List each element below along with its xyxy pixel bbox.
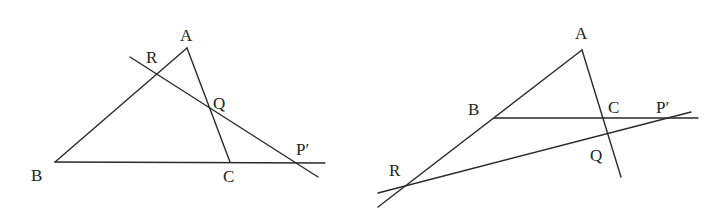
figure-right: A B C P′ Q R [378,24,698,207]
label-B: B [468,100,479,119]
label-Q: Q [213,94,225,113]
transversal [130,57,318,177]
menelaus-diagram: A R Q B C P′ A B C P′ Q R [0,0,726,222]
label-A: A [575,24,588,43]
transversal [378,112,691,193]
figure-left: A R Q B C P′ [31,26,325,186]
label-C: C [223,167,234,186]
label-B: B [31,166,42,185]
side-AB [55,48,187,162]
label-R: R [389,161,401,180]
label-A: A [180,26,193,45]
label-Q: Q [590,146,602,165]
label-C: C [608,98,619,117]
label-R: R [146,48,158,67]
side-AB-extended [378,50,582,207]
label-P-prime: P′ [296,140,309,159]
line-BC-extended [55,162,325,163]
label-P-prime: P′ [656,98,669,117]
